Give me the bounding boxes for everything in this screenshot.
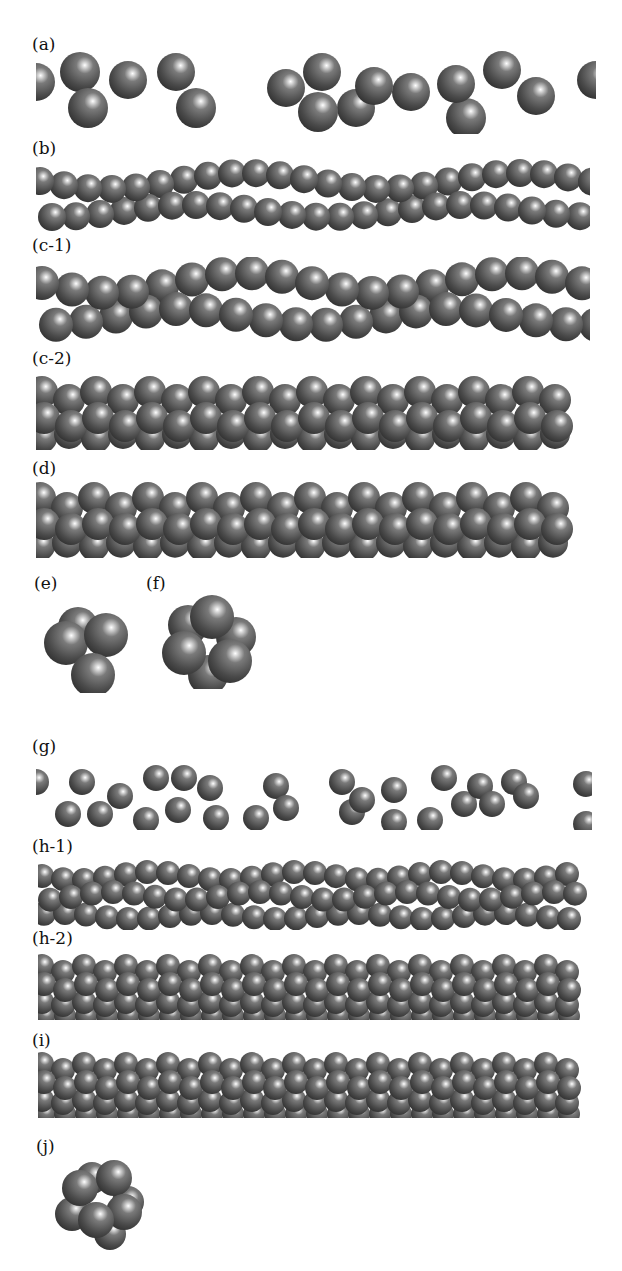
sphere — [82, 402, 114, 434]
sphere — [450, 861, 474, 885]
sphere — [305, 1076, 329, 1100]
sphere — [446, 191, 474, 219]
sphere — [190, 402, 222, 434]
sphere — [190, 508, 222, 540]
sphere — [433, 410, 465, 442]
sphere — [163, 410, 195, 442]
sphere — [494, 1070, 518, 1094]
sphere — [217, 410, 249, 442]
sphere — [227, 881, 251, 905]
sphere — [355, 67, 393, 105]
sphere — [243, 805, 269, 830]
cross-section-e — [38, 593, 138, 693]
sphere — [549, 307, 583, 341]
sphere — [460, 402, 492, 434]
sphere — [350, 201, 378, 229]
sphere — [55, 272, 89, 306]
sphere — [429, 860, 453, 884]
sphere — [74, 1070, 98, 1094]
sphere — [115, 275, 149, 309]
sphere — [218, 159, 246, 187]
sphere — [431, 1076, 455, 1100]
sphere — [395, 880, 419, 904]
sphere — [74, 174, 102, 202]
sphere — [416, 882, 440, 906]
sphere — [379, 513, 411, 545]
sphere — [431, 906, 455, 930]
panel-label-e: (e) — [34, 575, 57, 592]
sphere — [143, 765, 169, 791]
sphere — [535, 260, 569, 294]
sphere — [116, 907, 140, 930]
sphere — [298, 92, 338, 132]
sphere — [284, 1070, 308, 1094]
sphere — [392, 73, 430, 111]
sphere — [53, 1076, 77, 1100]
sphere — [433, 513, 465, 545]
sphere — [55, 410, 87, 442]
panel-label-h1: (h-1) — [32, 838, 73, 855]
sphere — [189, 293, 223, 327]
sphere — [87, 801, 113, 827]
sphere — [269, 882, 293, 906]
sphere — [248, 880, 272, 904]
sphere — [381, 809, 407, 830]
panel-d: (d) — [0, 460, 622, 560]
sphere — [554, 163, 582, 191]
sphere — [475, 257, 509, 291]
sphere — [381, 777, 407, 803]
sphere — [563, 882, 587, 906]
sphere — [406, 508, 438, 540]
sphere — [519, 303, 553, 337]
sphere — [55, 513, 87, 545]
sphere-chain-a — [36, 50, 596, 134]
sphere — [122, 173, 150, 201]
sphere — [242, 905, 266, 929]
sphere — [515, 978, 539, 1002]
panel-label-h2: (h-2) — [32, 930, 73, 947]
sphere — [122, 881, 146, 905]
sphere — [513, 783, 539, 809]
sphere — [38, 203, 66, 231]
sphere — [98, 175, 126, 203]
sphere — [521, 881, 545, 905]
sphere — [39, 308, 73, 342]
sphere — [565, 266, 590, 300]
sphere — [473, 1076, 497, 1100]
sphere-wire-b — [36, 159, 590, 235]
sphere — [325, 410, 357, 442]
sphere — [324, 864, 348, 888]
sphere — [536, 1070, 560, 1094]
cross-section-j — [52, 1150, 152, 1250]
sphere — [107, 783, 133, 809]
sphere — [157, 53, 195, 91]
sphere — [60, 52, 100, 92]
sphere — [271, 410, 303, 442]
sphere — [84, 613, 128, 657]
sphere — [542, 200, 570, 228]
sphere — [458, 163, 486, 191]
sphere — [208, 639, 252, 683]
sphere — [59, 885, 83, 909]
sphere — [221, 1076, 245, 1100]
sphere — [158, 972, 182, 996]
sphere — [263, 1076, 287, 1100]
sphere — [302, 203, 330, 231]
sphere — [452, 972, 476, 996]
sphere — [156, 861, 180, 885]
sphere — [263, 907, 287, 930]
sphere — [431, 765, 457, 791]
sphere — [338, 173, 366, 201]
sphere — [379, 410, 411, 442]
sphere — [573, 811, 592, 830]
sphere — [410, 907, 434, 930]
panel-ef: (e) (f) — [0, 575, 622, 695]
sphere — [179, 1076, 203, 1100]
sphere — [530, 160, 558, 188]
sphere — [353, 885, 377, 909]
sphere — [290, 165, 318, 193]
sphere — [479, 888, 503, 912]
sphere — [74, 972, 98, 996]
sphere — [303, 53, 341, 91]
sphere — [203, 805, 229, 830]
